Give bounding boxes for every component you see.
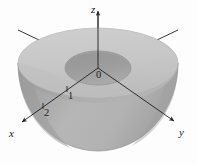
hemisphere-with-hole-diagram: z x y 0 1 2: [0, 0, 197, 165]
axis-label-z: z: [90, 3, 96, 15]
axis-label-x: x: [8, 127, 14, 139]
figure-container: z x y 0 1 2: [0, 0, 197, 165]
tick-label-2: 2: [44, 107, 49, 118]
tick-label-1: 1: [68, 90, 73, 101]
origin-label: 0: [96, 69, 101, 80]
axis-label-y: y: [178, 126, 184, 138]
